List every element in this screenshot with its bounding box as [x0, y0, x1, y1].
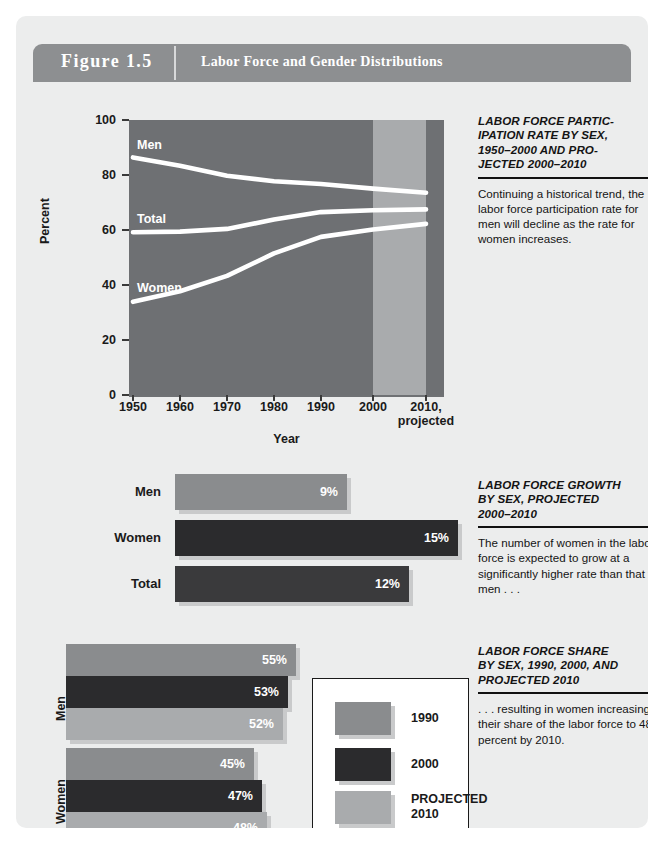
x-tick-2010: 2010, projected	[396, 400, 456, 428]
line-chart-y-axis-title: Percent	[38, 198, 52, 244]
growth-row-label-women: Women	[16, 530, 161, 545]
legend-label-2000: 2000	[411, 757, 439, 772]
panel-title: LABOR FORCE GROWTH BY SEX, PROJECTED 200…	[478, 478, 648, 521]
x-tick-1990: 1990	[291, 400, 351, 414]
growth-row-label-total: Total	[16, 576, 161, 591]
panel-participation: LABOR FORCE PARTIC- IPATION RATE BY SEX,…	[478, 114, 648, 246]
share-bar-women-projected-2010: 48%	[66, 812, 267, 828]
y-tick-100: 100	[76, 113, 116, 127]
y-tick-80: 80	[76, 168, 116, 182]
y-tick-mark	[122, 229, 129, 231]
panel-body: The number of women in the labor force i…	[478, 535, 648, 596]
panel-rule	[478, 692, 648, 694]
bar-fill	[175, 520, 458, 556]
growth-bar-total: 12%	[175, 566, 409, 602]
line-label-total: Total	[137, 212, 166, 226]
panel-title: LABOR FORCE PARTIC- IPATION RATE BY SEX,…	[478, 114, 648, 172]
legend-swatch-1990	[335, 702, 391, 735]
panel-rule	[478, 526, 648, 528]
y-tick-mark	[122, 119, 129, 121]
y-tick-mark	[122, 339, 129, 341]
legend-swatch-projected-2010	[335, 791, 391, 824]
legend-label-projected-2010: PROJECTED 2010	[411, 792, 487, 822]
participation-line-chart: Percent 100 80 60 40 20 0 Men Total	[16, 16, 486, 376]
swatch-fill	[335, 702, 391, 735]
growth-bar-men: 9%	[175, 474, 347, 510]
y-tick-mark	[122, 394, 129, 396]
share-chart-legend: 1990 2000 PROJECTED 2010	[312, 678, 469, 828]
share-bar-women-1990: 45%	[66, 748, 254, 780]
series-line-men	[133, 157, 426, 192]
bar-value-label: 53%	[254, 685, 279, 699]
panel-rule	[478, 177, 648, 179]
bar-value-label: 47%	[228, 789, 253, 803]
y-tick-20: 20	[76, 333, 116, 347]
line-chart-plot-area: Men Total Women	[129, 120, 444, 395]
growth-bar-chart: Men 9% Women 15% Total 12%	[16, 471, 486, 636]
legend-label-1990: 1990	[411, 711, 439, 726]
share-bar-men-1990: 55%	[66, 644, 296, 676]
growth-bar-women: 15%	[175, 520, 458, 556]
line-chart-x-axis-title: Year	[129, 432, 444, 446]
line-label-men: Men	[137, 138, 162, 152]
swatch-fill	[335, 791, 391, 824]
panel-body: . . . resulting in women increasing thei…	[478, 701, 648, 747]
panel-share: LABOR FORCE SHARE BY SEX, 1990, 2000, AN…	[478, 644, 648, 747]
bar-value-label: 45%	[220, 757, 245, 771]
bar-value-label: 9%	[320, 485, 338, 499]
panel-body: Continuing a historical trend, the labor…	[478, 186, 648, 247]
bar-value-label: 52%	[249, 717, 274, 731]
line-label-women: Women	[137, 281, 182, 295]
x-tick-2000: 2000	[343, 400, 403, 414]
x-axis-line	[129, 395, 444, 397]
y-tick-60: 60	[76, 223, 116, 237]
bar-value-label: 15%	[424, 531, 449, 545]
share-bar-men-projected-2010: 52%	[66, 708, 283, 740]
share-bar-men-2000: 53%	[66, 676, 288, 708]
share-bar-women-2000: 47%	[66, 780, 262, 812]
panel-title: LABOR FORCE SHARE BY SEX, 1990, 2000, AN…	[478, 644, 648, 687]
legend-swatch-2000	[335, 748, 391, 781]
y-tick-mark	[122, 174, 129, 176]
bar-fill	[175, 566, 409, 602]
growth-row-label-men: Men	[16, 484, 161, 499]
line-series-group	[129, 120, 444, 395]
bar-value-label: 12%	[375, 577, 400, 591]
bar-value-label: 55%	[262, 653, 287, 667]
y-tick-40: 40	[76, 278, 116, 292]
figure-card: Figure 1.5 Labor Force and Gender Distri…	[16, 16, 648, 828]
bar-value-label: 48%	[233, 821, 258, 828]
y-tick-mark	[122, 284, 129, 286]
panel-growth: LABOR FORCE GROWTH BY SEX, PROJECTED 200…	[478, 478, 648, 596]
swatch-fill	[335, 748, 391, 781]
